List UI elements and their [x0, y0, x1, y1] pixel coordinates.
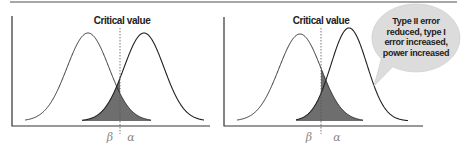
beta-label: β [305, 131, 312, 144]
panel-before: Critical value β α [12, 15, 210, 144]
callout-line-2: reduced, type I [386, 27, 445, 37]
critical-value-label: Critical value [293, 15, 350, 26]
alpha-label: α [333, 131, 341, 144]
null-distribution-curve [237, 34, 363, 120]
callout-line-3: error increased, [384, 37, 447, 47]
callout-bubble: Type II error reduced, type I error incr… [372, 4, 460, 86]
beta-label: β [106, 131, 113, 144]
callout-line-1: Type II error [392, 16, 440, 26]
shaded-error-region [82, 78, 151, 121]
shaded-error-region [296, 68, 363, 121]
alpha-label: α [127, 131, 135, 144]
critical-value-label: Critical value [94, 15, 151, 26]
callout-line-4: power increased [383, 48, 450, 58]
type-error-power-diagram: Critical value β α Critical value β α Ty… [0, 0, 463, 147]
